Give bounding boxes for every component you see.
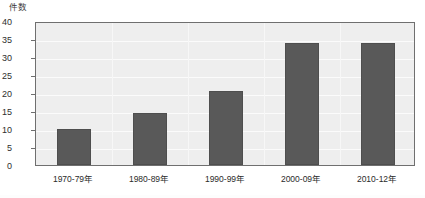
gridline-vertical [188,23,189,165]
plot-area [35,22,415,166]
gridline-horizontal [36,77,414,78]
gridline-vertical [264,23,265,165]
y-axis-tick-label: 35 [0,35,12,45]
y-axis-tick-label: 40 [0,17,12,27]
x-axis-tick-label: 1980-89年 [129,172,169,184]
x-axis-tick-label: 2010-12年 [357,172,397,184]
bar-1980-89年 [133,113,167,165]
y-axis-tick-label: 10 [0,125,12,135]
x-axis-tick-label: 2000-09年 [281,172,321,184]
gridline-vertical [340,23,341,165]
x-axis-tick-label: 1990-99年 [205,172,245,184]
y-axis-unit-label: 件数 [9,2,27,12]
y-axis-tick-label: 30 [0,53,12,63]
gridline-horizontal [36,59,414,60]
scan-edge [0,195,425,198]
bar-1990-99年 [209,91,243,165]
x-axis-tick-label: 1970-79年 [53,172,93,184]
y-axis-tick-label: 25 [0,71,12,81]
bar-2010-12年 [361,43,395,165]
bar-1970-79年 [57,129,91,165]
bar-chart-figure: 件数 0510152025303540 1970-79年1980-89年1990… [0,0,425,198]
bar-2000-09年 [285,43,319,165]
gridline-vertical [112,23,113,165]
y-axis-tick-label: 20 [0,89,12,99]
y-axis-tick-label: 15 [0,107,12,117]
y-axis-tick-label: 0 [0,161,12,171]
gridline-horizontal [36,41,414,42]
y-axis-tick-label: 5 [0,143,12,153]
